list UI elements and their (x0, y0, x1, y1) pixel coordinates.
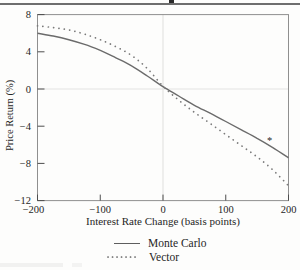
legend-label: Monte Carlo (148, 237, 206, 249)
y-tick-label: −4 (20, 121, 32, 132)
scan-artifact (72, 263, 82, 267)
dotted-line-sample (107, 255, 140, 259)
x-axis-title: Interest Rate Change (basis points) (37, 215, 289, 227)
chart-figure: 840−4−8−12−200−1000100200* Price Return … (0, 0, 300, 270)
solid-line-sample (114, 243, 140, 244)
stray-mark: * (267, 135, 272, 146)
x-tick-label: −100 (89, 204, 111, 215)
y-tick-label: −8 (20, 158, 31, 169)
y-tick-label: 4 (26, 46, 32, 57)
x-tick-label: −200 (23, 204, 45, 215)
y-tick-label: 0 (26, 84, 31, 95)
y-axis-title: Price Return (%) (4, 80, 15, 151)
scan-artifact (0, 263, 63, 267)
x-tick-label: 200 (281, 204, 297, 215)
legend-item-monte-carlo: Monte Carlo (114, 237, 206, 249)
x-tick-label: 0 (160, 204, 165, 215)
legend-label: Vector (149, 251, 179, 263)
y-tick-label: 8 (26, 9, 31, 20)
price-return-chart: 840−4−8−12−200−1000100200* (0, 0, 300, 270)
legend-item-vector: Vector (107, 251, 179, 263)
x-tick-label: 100 (218, 204, 234, 215)
